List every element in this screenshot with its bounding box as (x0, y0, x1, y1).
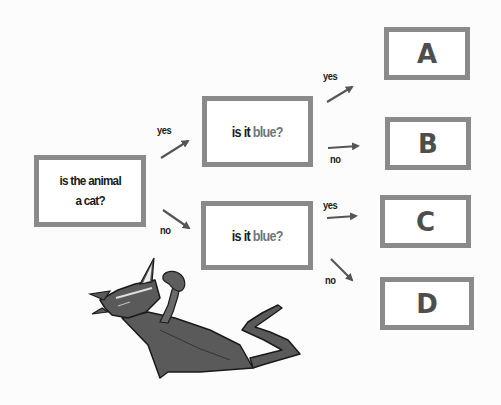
root-question-box: is the animal a cat? (34, 155, 146, 227)
question-box-bottom: is it blue? (201, 201, 313, 270)
edge-label-root-yes: yes (157, 124, 171, 136)
arrow-q1-yes (327, 87, 352, 102)
arrow-q2-yes (327, 216, 356, 218)
edge-label-root-no: no (160, 224, 171, 236)
edge-label-q1-no: no (330, 153, 341, 165)
diagram-canvas: is the animal a cat? is it blue? is it b… (0, 0, 501, 405)
edge-label-q1-yes: yes (323, 70, 337, 82)
arrow-root-yes (161, 141, 188, 158)
leaf-box-d: D (380, 277, 474, 330)
arrow-q1-no (328, 146, 358, 148)
question-prefix: is it (232, 124, 253, 140)
leaf-box-b: B (385, 117, 471, 170)
question-box-top: is it blue? (202, 96, 313, 167)
leaf-label-c: C (416, 207, 435, 237)
leaf-box-a: A (384, 27, 470, 80)
leaf-label-d: D (416, 289, 438, 319)
root-question-line2: a cat? (59, 191, 121, 211)
question-highlight-word: blue? (253, 124, 283, 140)
question-highlight-word: blue? (252, 228, 282, 244)
edge-label-q2-yes: yes (323, 199, 337, 211)
leaf-label-b: B (418, 129, 438, 159)
cat-icon (90, 258, 300, 378)
question-text-top: is it blue? (232, 122, 283, 142)
root-question-line1: is the animal (59, 171, 121, 191)
root-question-text: is the animal a cat? (59, 171, 121, 211)
question-prefix: is it (232, 228, 253, 244)
question-text-bottom: is it blue? (232, 226, 283, 246)
leaf-box-c: C (380, 195, 471, 248)
leaf-label-a: A (417, 39, 437, 69)
edge-label-q2-no: no (325, 274, 336, 286)
